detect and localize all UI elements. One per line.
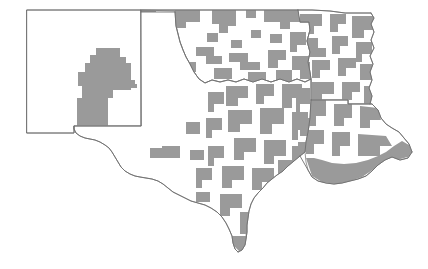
county-shaded-tx-coast-3 xyxy=(240,212,258,234)
county-shaded-tx-c-15 xyxy=(196,192,210,202)
state-base-fills xyxy=(27,10,412,252)
county-shaded-tx-w-1 xyxy=(150,148,164,158)
county-shaded-ok-north-2 xyxy=(246,10,256,18)
county-shaded-nm-notch xyxy=(131,84,137,88)
county-shaded-tx-coast-1 xyxy=(278,160,298,186)
county-shaded-ok-central-3 xyxy=(251,30,261,38)
county-shaded-ok-central-1 xyxy=(207,33,218,42)
county-shaded-ok-central-4 xyxy=(270,34,282,43)
county-shaded-ok-south-2 xyxy=(214,68,232,79)
county-map-svg: Shaded county map of the south-central U… xyxy=(0,0,428,269)
county-shaded-tx-coast-2 xyxy=(262,188,282,210)
county-shaded-tx-c-5 xyxy=(186,122,200,134)
county-shaded-tx-c-10 xyxy=(190,150,204,160)
county-shaded-tx-c-11 xyxy=(162,146,180,158)
county-shaded-ok-central-2 xyxy=(231,40,242,48)
map-figure: Shaded county map of the south-central U… xyxy=(0,0,428,269)
